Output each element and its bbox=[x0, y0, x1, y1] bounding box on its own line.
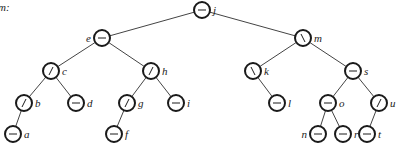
node-label: n bbox=[302, 128, 308, 140]
edge-c-d bbox=[56, 77, 71, 96]
edge-m-s bbox=[310, 42, 347, 66]
tree-node-u: u bbox=[371, 95, 396, 111]
tree-node-l: l bbox=[269, 95, 291, 111]
tree-node-s: s bbox=[345, 63, 368, 79]
node-label: l bbox=[288, 97, 291, 109]
tree-node-a: a bbox=[5, 126, 30, 142]
edge-g-f bbox=[117, 110, 124, 126]
edge-e-c bbox=[58, 42, 96, 66]
node-label: s bbox=[364, 65, 368, 77]
edge-u-t bbox=[370, 110, 376, 126]
node-label: m bbox=[314, 32, 322, 44]
tree-node-k: k bbox=[245, 63, 270, 79]
edge-h-i bbox=[156, 77, 171, 96]
edge-m-k bbox=[260, 42, 297, 66]
tree-node-j: j bbox=[194, 2, 216, 18]
tree-node-e: e bbox=[86, 30, 110, 46]
edge-j-m bbox=[210, 12, 296, 36]
edge-o-n bbox=[320, 111, 325, 127]
tree-node-g: g bbox=[119, 95, 144, 111]
tree-node-h: h bbox=[143, 63, 168, 79]
node-label: h bbox=[162, 65, 168, 77]
edge-j-e bbox=[110, 12, 195, 36]
node-label: k bbox=[264, 65, 270, 77]
node-label: b bbox=[35, 97, 41, 109]
node-label: t bbox=[378, 128, 382, 140]
tree-node-d: d bbox=[68, 95, 93, 111]
tree-node-n: n bbox=[302, 126, 327, 142]
node-label: e bbox=[86, 32, 91, 44]
tree-node-o: o bbox=[320, 95, 345, 111]
node-label: d bbox=[87, 97, 93, 109]
edge-s-o bbox=[333, 77, 348, 96]
node-label: u bbox=[390, 97, 396, 109]
tree-node-m: m bbox=[295, 30, 322, 46]
node-label: a bbox=[24, 128, 30, 140]
node-label: i bbox=[187, 97, 190, 109]
tree-node-c: c bbox=[43, 63, 67, 79]
edge-h-g bbox=[132, 77, 146, 96]
node-label: f bbox=[125, 128, 130, 140]
node-label: g bbox=[138, 97, 144, 109]
tree-node-b: b bbox=[16, 95, 41, 111]
tree-nodes: jemchksbdgilouafnrt bbox=[5, 2, 396, 142]
edge-e-h bbox=[109, 42, 145, 66]
tree-node-t: t bbox=[359, 126, 382, 142]
edge-c-b bbox=[29, 77, 46, 97]
node-label: c bbox=[62, 65, 67, 77]
tree-diagram: jemchksbdgilouafnrt bbox=[0, 0, 406, 152]
edge-o-r bbox=[331, 110, 339, 127]
tree-node-r: r bbox=[335, 126, 359, 142]
edge-k-l bbox=[258, 77, 272, 96]
edge-b-a bbox=[16, 111, 22, 127]
edge-s-u bbox=[358, 77, 374, 97]
node-label: j bbox=[211, 4, 216, 16]
node-label: o bbox=[339, 97, 345, 109]
tree-node-f: f bbox=[106, 126, 130, 142]
tree-node-i: i bbox=[168, 95, 190, 111]
